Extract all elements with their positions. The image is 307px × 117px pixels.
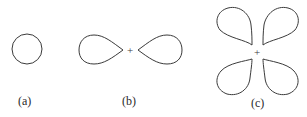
d-orbital-lobe-upper-left — [217, 7, 252, 45]
panel-c: + (c) — [217, 7, 298, 110]
d-orbital-lobe-lower-left — [217, 59, 252, 95]
panel-c-label: (c) — [251, 96, 264, 110]
p-orbital-right-lobe — [138, 35, 182, 64]
d-orbital-lobe-lower-right — [263, 59, 298, 95]
panel-b: + (b) — [79, 35, 182, 108]
panel-a: (a) — [12, 34, 42, 108]
p-orbital-left-lobe — [79, 35, 123, 64]
s-orbital-circle — [12, 34, 42, 64]
d-orbital-lobe-upper-right — [263, 7, 298, 45]
panel-b-label: (b) — [122, 94, 136, 108]
panel-a-label: (a) — [18, 94, 31, 108]
orbital-diagram: (a) + (b) + (c) — [0, 0, 307, 117]
d-nucleus-marker: + — [254, 46, 260, 58]
p-nucleus-marker: + — [127, 44, 133, 56]
